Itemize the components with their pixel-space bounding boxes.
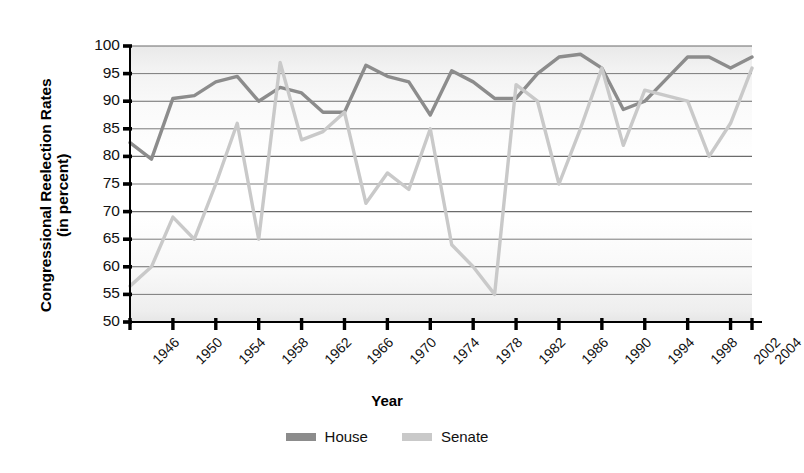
y-axis-tick-label: 50 xyxy=(82,312,120,330)
x-axis-title: Year xyxy=(0,392,774,409)
series-line-house xyxy=(130,54,752,159)
legend-label: House xyxy=(325,428,368,445)
x-axis-tick-label: 1978 xyxy=(492,334,525,367)
legend-swatch-icon xyxy=(286,433,316,441)
y-axis-tick-label: 65 xyxy=(82,229,120,247)
x-axis-tick-label: 1982 xyxy=(535,334,568,367)
y-axis-tick-label: 100 xyxy=(82,36,120,54)
y-axis-tick-label: 60 xyxy=(82,257,120,275)
x-axis-tick-label: 1990 xyxy=(621,334,654,367)
y-axis-title-line2: (in percent) xyxy=(54,45,71,345)
x-axis-tick-label: 1974 xyxy=(449,334,482,367)
x-axis-tick-label: 1970 xyxy=(407,334,440,367)
x-axis-tick-label: 1962 xyxy=(321,334,354,367)
legend-item-house: House xyxy=(286,428,368,445)
x-axis-tick-label: 1998 xyxy=(707,334,740,367)
x-axis-tick-label: 1994 xyxy=(664,334,697,367)
chart-legend: HouseSenate xyxy=(0,428,774,445)
x-axis-tick-label: 1986 xyxy=(578,334,611,367)
x-axis-tick-label: 1966 xyxy=(364,334,397,367)
legend-swatch-icon xyxy=(402,433,432,441)
y-axis-title: Congressional Reelection Rates (in perce… xyxy=(37,45,72,345)
y-axis-tick-label: 55 xyxy=(82,284,120,302)
y-axis-tick-label: 90 xyxy=(82,91,120,109)
chart-canvas xyxy=(130,46,752,322)
y-axis-tick-label: 85 xyxy=(82,119,120,137)
x-axis-tick-label: 1946 xyxy=(149,334,182,367)
x-axis-tick-label: 1950 xyxy=(192,334,225,367)
series-line-senate xyxy=(130,63,752,295)
x-axis-tick-label: 1954 xyxy=(235,334,268,367)
x-axis-tick-label: 1958 xyxy=(278,334,311,367)
legend-label: Senate xyxy=(441,428,489,445)
y-axis-tick-label: 75 xyxy=(82,174,120,192)
y-axis-tick-label: 95 xyxy=(82,64,120,82)
legend-item-senate: Senate xyxy=(402,428,489,445)
y-axis-tick-label: 70 xyxy=(82,202,120,220)
y-axis-title-line1: Congressional Reelection Rates xyxy=(37,78,54,312)
plot-area xyxy=(130,46,752,322)
y-axis-tick-label: 80 xyxy=(82,146,120,164)
